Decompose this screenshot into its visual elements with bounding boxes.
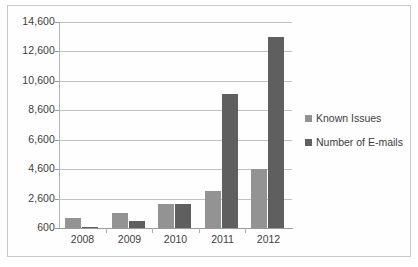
bar-group-2010: [152, 22, 199, 228]
bar-group-2012: [245, 22, 292, 228]
y-axis-label: 14,600: [3, 15, 55, 27]
y-axis-label: 6,600: [3, 133, 55, 145]
legend-label: Number of E-mails: [316, 137, 403, 148]
x-axis-line: [59, 228, 293, 229]
legend-swatch-icon: [305, 115, 312, 122]
bar-group-2009: [106, 22, 153, 228]
y-axis-label: 10,600: [3, 74, 55, 86]
legend-item-known-issues[interactable]: Known Issues: [305, 113, 411, 124]
x-axis-label-2012: 2012: [245, 233, 292, 245]
x-axis-label-2010: 2010: [152, 233, 199, 245]
legend-swatch-icon: [305, 139, 312, 146]
x-axis-label-2009: 2009: [106, 233, 153, 245]
bar-group-2011: [199, 22, 246, 228]
x-axis-label-2011: 2011: [199, 233, 246, 245]
y-axis-label: 4,600: [3, 162, 55, 174]
y-axis-label: 600: [3, 221, 55, 233]
legend-label: Known Issues: [316, 113, 381, 124]
bar-2011-emails[interactable]: [222, 94, 238, 228]
bar-2011-known-issues[interactable]: [205, 191, 221, 228]
bar-group-2008: [59, 22, 106, 228]
bar-2009-known-issues[interactable]: [112, 213, 128, 228]
y-axis-label: 2,600: [3, 192, 55, 204]
y-axis-label: 8,600: [3, 103, 55, 115]
bar-2008-known-issues[interactable]: [65, 218, 81, 228]
bar-2010-known-issues[interactable]: [158, 204, 174, 228]
y-axis-line: [59, 22, 60, 229]
bar-2012-known-issues[interactable]: [251, 169, 267, 228]
bar-2009-emails[interactable]: [129, 221, 145, 228]
bar-2012-emails[interactable]: [268, 37, 284, 228]
y-axis-labels: 6002,6004,6006,6008,60010,60012,60014,60…: [0, 0, 55, 267]
chart-legend: Known IssuesNumber of E-mails: [305, 113, 411, 161]
bar-2010-emails[interactable]: [175, 204, 191, 228]
plot-area: [59, 22, 292, 228]
legend-item-number-of-emails[interactable]: Number of E-mails: [305, 137, 411, 148]
bar-chart-figure: 6002,6004,6006,6008,60010,60012,60014,60…: [0, 0, 418, 267]
x-axis-label-2008: 2008: [59, 233, 106, 245]
y-axis-label: 12,600: [3, 44, 55, 56]
